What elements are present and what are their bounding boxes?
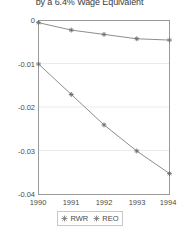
star-marker-icon xyxy=(61,215,68,222)
y-tick-label: -0.01 xyxy=(18,60,35,69)
star-marker-icon xyxy=(93,215,100,222)
chart-figure: by a 6.4% Wage Equivalent 0 -0.01 -0.02 … xyxy=(0,0,179,231)
data-point-marker xyxy=(167,38,172,43)
legend-label: REO xyxy=(102,215,118,223)
data-series-layer xyxy=(36,20,172,176)
legend-item-reo[interactable]: REO xyxy=(93,215,118,223)
data-point-marker xyxy=(102,123,107,128)
y-axis-ticks: 0 -0.01 -0.02 -0.03 -0.04 xyxy=(18,16,35,199)
x-axis-ticks: 1990 1991 1992 1993 1994 xyxy=(30,198,177,207)
y-tick-label: -0.03 xyxy=(18,147,35,156)
series-line xyxy=(39,64,170,174)
plot-area: 0 -0.01 -0.02 -0.03 -0.04 1990 1991 1992… xyxy=(0,0,179,231)
data-point-marker xyxy=(134,149,139,154)
series-line xyxy=(39,23,170,40)
data-point-marker xyxy=(36,62,41,67)
x-tick-label: 1994 xyxy=(160,198,177,207)
legend-item-rwr[interactable]: RWR xyxy=(61,215,88,223)
x-tick-label: 1991 xyxy=(63,198,80,207)
data-point-marker xyxy=(134,36,139,41)
x-tick-label: 1993 xyxy=(129,198,146,207)
series-reo xyxy=(36,62,172,176)
x-tick-label: 1990 xyxy=(30,198,47,207)
data-point-marker xyxy=(69,28,74,33)
data-point-marker xyxy=(69,92,74,97)
gridlines xyxy=(38,64,170,151)
y-tick-label: -0.02 xyxy=(18,103,35,112)
chart-legend: RWR REO xyxy=(57,211,123,226)
legend-label: RWR xyxy=(70,215,88,223)
y-tick-label: 0 xyxy=(31,16,35,25)
x-tick-label: 1992 xyxy=(96,198,113,207)
series-rwr xyxy=(36,20,172,42)
data-point-marker xyxy=(167,171,172,176)
data-point-marker xyxy=(102,32,107,37)
data-point-marker xyxy=(36,20,41,25)
